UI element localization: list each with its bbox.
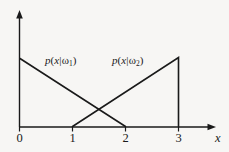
x-tick-label-2: 2 [118, 132, 134, 145]
density1-close-paren: ) [73, 54, 77, 66]
density-curve-omega1 [20, 59, 126, 127]
x-axis-arrowhead [208, 124, 217, 130]
y-axis-arrowhead [16, 10, 23, 19]
x-tick-label-1: 1 [65, 132, 81, 145]
density-curve-omega2 [73, 58, 179, 127]
density-label-omega1: p(x|ω1) [45, 55, 77, 67]
density2-close-paren: ) [140, 54, 144, 66]
density-label-omega2: p(x|ω2) [112, 55, 144, 67]
density-plot [0, 0, 229, 152]
x-axis-title: x [215, 132, 221, 145]
x-tick-label-0: 0 [12, 132, 28, 145]
figure-container: 0 1 2 3 x p(x|ω1) p(x|ω2) [0, 0, 229, 152]
x-tick-label-3: 3 [171, 132, 187, 145]
